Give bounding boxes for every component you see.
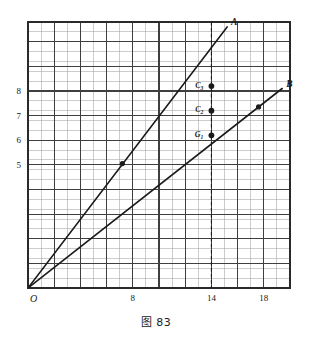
y-tick-label-5: 5 <box>17 160 22 170</box>
series-label-A: A <box>230 17 237 27</box>
figure-83: C3C2G1 AB 814185678O 图 83 <box>0 0 312 343</box>
marked-point-C2 <box>209 108 215 114</box>
marked-point-C3 <box>209 83 215 89</box>
figure-caption: 图 83 <box>0 313 312 329</box>
series-point-A-0 <box>120 161 125 166</box>
x-tick-label-18: 18 <box>259 293 269 303</box>
x-tick-label-14: 14 <box>207 293 217 303</box>
marked-point-G1 <box>209 132 215 138</box>
origin-label: O <box>30 293 37 304</box>
y-tick-label-6: 6 <box>17 135 22 145</box>
chart-canvas: C3C2G1 AB 814185678O <box>0 0 312 343</box>
series-point-B-0 <box>256 104 261 109</box>
y-tick-label-8: 8 <box>17 86 22 96</box>
x-tick-label-8: 8 <box>131 293 136 303</box>
y-tick-label-7: 7 <box>17 111 22 121</box>
series-label-B: B <box>285 79 292 89</box>
